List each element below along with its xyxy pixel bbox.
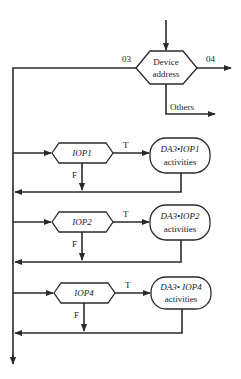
branch-04-label: 04 (206, 54, 216, 64)
iop2-true-label: T (123, 209, 129, 219)
iop2-action-label-2: activities (164, 224, 197, 234)
device-address-decision (136, 51, 197, 84)
iop4-false-label: F (74, 310, 79, 320)
iop1-action-label-1: DA3•IOP1 (159, 144, 199, 154)
iop2-label: IOP2 (71, 217, 92, 227)
iop4-true-label: T (125, 280, 131, 290)
iop1-label: IOP1 (71, 148, 92, 158)
stage-iop2: IOP2 T DA3•IOP2 activities F (13, 205, 210, 262)
iop2-action-label-1: DA3•IOP2 (159, 211, 200, 221)
device-address-label-2: address (153, 69, 180, 79)
flowchart: Device address 04 03 Others IOP1 T DA3•I… (0, 0, 241, 379)
iop2-false-label: F (72, 239, 77, 249)
branch-03-label: 03 (122, 54, 132, 64)
iop4-label: IOP4 (73, 288, 94, 298)
iop1-true-label: T (123, 140, 129, 150)
branch-others-label: Others (170, 102, 194, 112)
device-address-label-1: Device (153, 57, 178, 67)
iop1-action-label-2: activities (164, 157, 197, 167)
stage-iop4: IOP4 T DA3• IOP4 activities F (13, 277, 211, 333)
iop4-action-label-2: activities (165, 294, 198, 304)
stage-iop1: IOP1 T DA3•IOP1 activities F (13, 138, 210, 192)
iop1-false-label: F (72, 170, 77, 180)
iop4-action-label-1: DA3• IOP4 (159, 282, 202, 292)
